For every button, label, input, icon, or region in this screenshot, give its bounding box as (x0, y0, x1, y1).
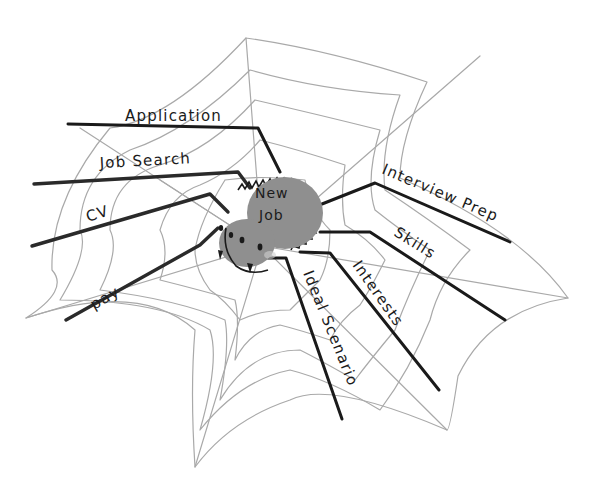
eye-icon (240, 237, 245, 243)
leg-cv (32, 194, 228, 246)
label-skills: Skills (391, 223, 439, 263)
spider-diagram: New Job Application Job Search CV pay In… (0, 0, 595, 487)
spider-web (26, 38, 568, 467)
eye-icon (219, 225, 223, 231)
eye-icon (258, 244, 263, 251)
label-application: Application (125, 107, 222, 125)
label-ideal-scenario: Ideal Scenario (299, 268, 362, 389)
eye-icon (229, 232, 233, 238)
label-pay: pay (87, 282, 123, 313)
spider-head (219, 219, 275, 267)
center-label-line1: New (255, 185, 289, 201)
center-label-line2: Job (258, 207, 284, 223)
label-job-search: Job Search (98, 149, 191, 172)
leg-job-search (34, 172, 250, 188)
spider-body: New Job (218, 177, 323, 273)
label-cv: CV (84, 202, 112, 226)
label-interests: Interests (349, 257, 408, 330)
